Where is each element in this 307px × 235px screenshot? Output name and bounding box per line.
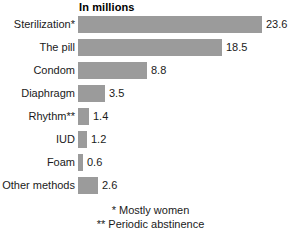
bar-track: 1.4: [78, 108, 307, 125]
bar-track: 0.6: [78, 154, 307, 171]
bar-fill: [78, 39, 222, 56]
bar-fill: [78, 85, 105, 102]
bar-value-label: 23.6: [266, 18, 287, 31]
bar-row: Diaphragm 3.5: [0, 84, 307, 107]
bar-category-label: Diaphragm: [21, 87, 75, 100]
bar-value-label: 0.6: [87, 156, 102, 169]
bar-track: 2.6: [78, 177, 307, 194]
bar-category-label: Other methods: [2, 179, 75, 192]
plot-area: Sterilization* 23.6 The pill 18.5 Condom…: [0, 15, 307, 199]
bar-category-label: Foam: [47, 156, 75, 169]
bar-category-label: Sterilization*: [14, 18, 75, 31]
bar-category-label: Condom: [33, 64, 75, 77]
footnotes: * Mostly women ** Periodic abstinence: [0, 203, 307, 231]
bar-track: 23.6: [78, 16, 307, 33]
bar-fill: [78, 62, 147, 79]
bar-category-label: Rhythm**: [29, 110, 75, 123]
bar-value-label: 1.4: [93, 110, 108, 123]
bar-row: Foam 0.6: [0, 153, 307, 176]
bar-fill: [78, 177, 98, 194]
bar-row: Rhythm** 1.4: [0, 107, 307, 130]
bar-value-label: 3.5: [109, 87, 124, 100]
bar-row: Sterilization* 23.6: [0, 15, 307, 38]
bar-fill: [78, 16, 262, 33]
bar-track: 8.8: [78, 62, 307, 79]
bar-value-label: 1.2: [91, 133, 106, 146]
bar-fill: [78, 131, 87, 148]
bar-row: Other methods 2.6: [0, 176, 307, 199]
bar-chart: In millions Sterilization* 23.6 The pill…: [0, 0, 307, 235]
bar-fill: [78, 154, 83, 171]
footnote-mostly-women: * Mostly women: [0, 203, 307, 217]
bar-track: 3.5: [78, 85, 307, 102]
bar-row: IUD 1.2: [0, 130, 307, 153]
bar-row: The pill 18.5: [0, 38, 307, 61]
bar-fill: [78, 108, 89, 125]
footnote-periodic-abstinence: ** Periodic abstinence: [0, 217, 307, 231]
bar-value-label: 2.6: [102, 179, 117, 192]
bar-track: 18.5: [78, 39, 307, 56]
bar-value-label: 8.8: [151, 64, 166, 77]
bar-category-label: The pill: [40, 41, 75, 54]
bar-track: 1.2: [78, 131, 307, 148]
bar-category-label: IUD: [56, 133, 75, 146]
bar-value-label: 18.5: [226, 41, 247, 54]
bar-row: Condom 8.8: [0, 61, 307, 84]
chart-title: In millions: [79, 1, 135, 13]
